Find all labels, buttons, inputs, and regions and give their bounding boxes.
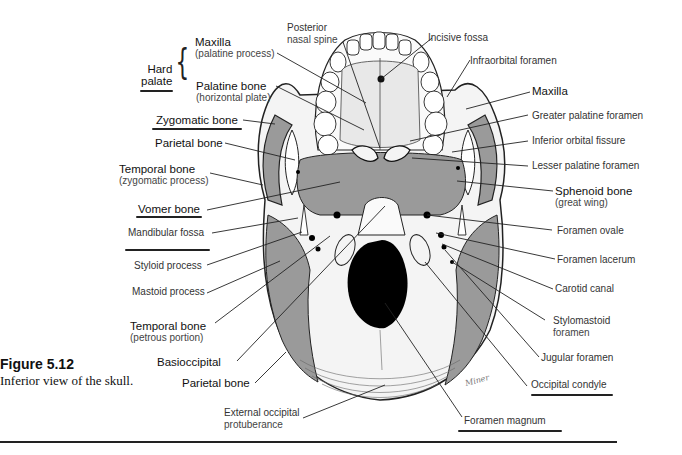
label-temporal-bone-zygomatic: Temporal bone (zygomatic process)	[119, 163, 208, 187]
label-maxilla-right: Maxilla	[532, 85, 568, 97]
underline-zygomatic-bone	[152, 128, 242, 130]
underline-occipital-condyle	[531, 394, 613, 396]
label-sphenoid-bone: Sphenoid bone (great wing)	[555, 185, 632, 209]
label-maxilla-palatine-process: Maxilla (palatine process)	[195, 36, 274, 60]
label-greater-palatine-foramen: Greater palatine foramen	[532, 110, 643, 122]
figure-description: Inferior view of the skull.	[0, 373, 133, 389]
label-inferior-orbital-fissure: Inferior orbital fissure	[532, 135, 625, 147]
label-basioccipital: Basioccipital	[157, 356, 221, 368]
label-zygomatic-bone: Zygomatic bone	[156, 114, 238, 126]
label-occipital-condyle: Occipital condyle	[531, 379, 607, 391]
figure-caption: Figure 5.12 Inferior view of the skull.	[0, 356, 133, 389]
hard-palate-label: Hard palate	[141, 63, 172, 87]
hard-palate-brace: {	[176, 44, 190, 80]
label-foramen-lacerum: Foramen lacerum	[557, 254, 635, 266]
label-jugular-foramen: Jugular foramen	[541, 352, 613, 364]
label-foramen-magnum: Foramen magnum	[464, 415, 546, 427]
label-parietal-bone-upper: Parietal bone	[155, 137, 223, 149]
label-lesser-palatine-foramen: Lesser palatine foramen	[532, 160, 639, 172]
label-posterior-nasal-spine: Posterior nasal spine	[287, 22, 338, 46]
label-styloid-process: Styloid process	[134, 260, 202, 272]
artist-signature: Miner	[463, 373, 491, 389]
label-incisive-fossa: Incisive fossa	[428, 32, 488, 44]
label-parietal-bone-lower: Parietal bone	[182, 377, 250, 389]
label-foramen-ovale: Foramen ovale	[557, 225, 624, 237]
underline-foramen-magnum	[458, 430, 562, 432]
label-infraorbital-foramen: Infraorbital foramen	[470, 55, 557, 67]
label-external-occipital-protuberance: External occipital protuberance	[224, 407, 300, 431]
label-mastoid-process: Mastoid process	[132, 286, 205, 298]
bottom-rule	[0, 441, 617, 443]
label-stylomastoid-foramen: Stylomastoid foramen	[553, 315, 610, 339]
label-palatine-bone: Palatine bone (horizontal plate)	[196, 80, 270, 104]
label-temporal-bone-petrous: Temporal bone (petrous portion)	[130, 320, 206, 344]
underline-vomer-bone	[136, 216, 202, 218]
underline-mandibular-fossa	[125, 249, 210, 251]
underline-hard-palate	[140, 90, 173, 92]
figure-stage: Miner { Hard palate Maxilla (palatine pr…	[0, 0, 682, 455]
label-vomer-bone: Vomer bone	[138, 203, 200, 215]
figure-number: Figure 5.12	[0, 356, 133, 372]
label-carotid-canal: Carotid canal	[555, 283, 614, 295]
label-mandibular-fossa: Mandibular fossa	[128, 227, 204, 239]
